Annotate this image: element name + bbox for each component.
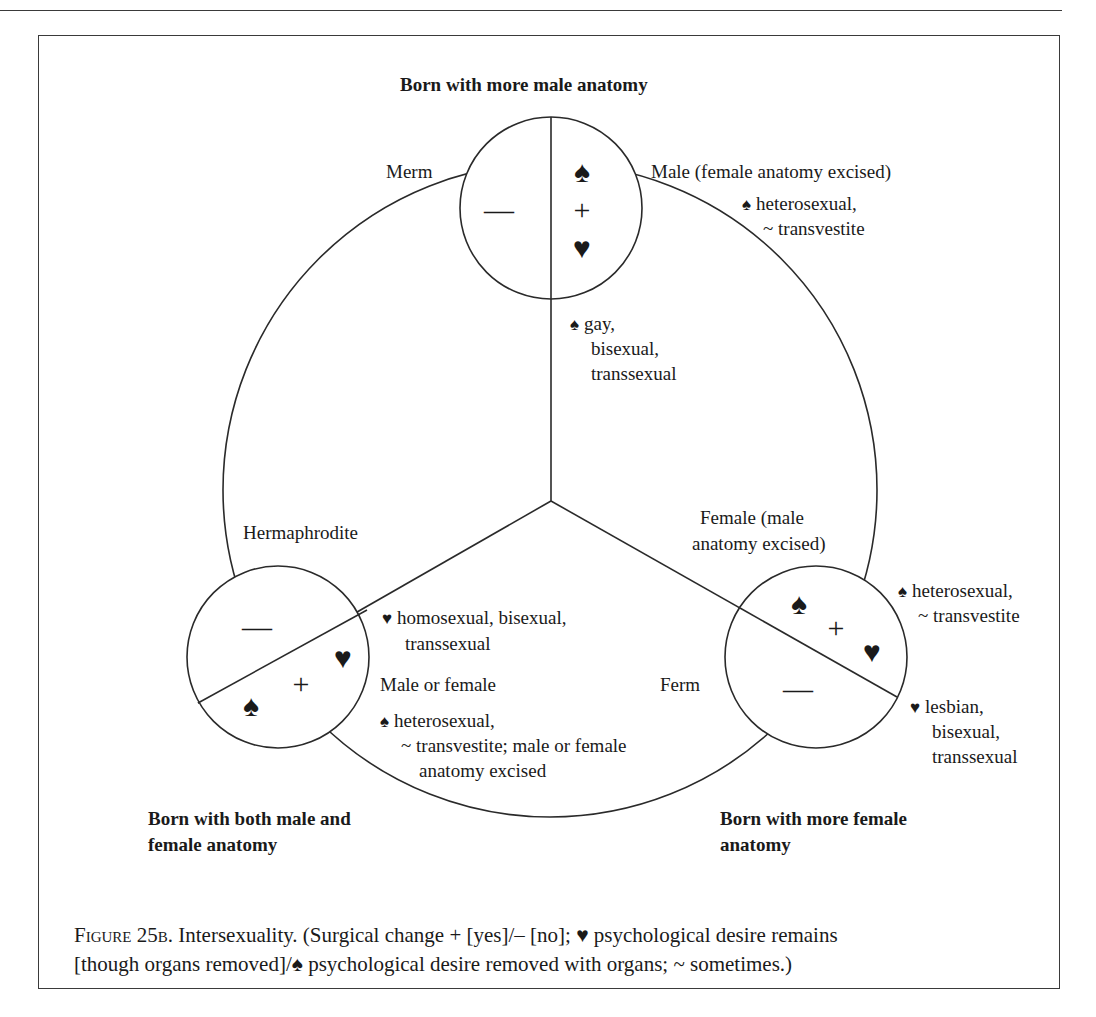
label-merm: Merm — [386, 159, 432, 184]
heading-more-female-line1: Born with more female — [720, 806, 907, 832]
spade-icon: ♠ — [380, 709, 389, 734]
spade-icon: ♠ — [781, 589, 817, 619]
heart-icon: ♥ — [910, 695, 920, 720]
note-herm-heart-line2: transsexual — [405, 631, 490, 656]
heading-more-female-line2: anatomy — [720, 832, 791, 858]
minus-icon: — — [239, 612, 275, 642]
note-herm-spade-line3: anatomy excised — [419, 758, 546, 783]
heading-more-male: Born with more male anatomy — [400, 72, 648, 98]
note-herm-spade-line2: ~ transvestite; male or female — [401, 733, 627, 758]
note-ferm-heart: ♥lesbian, — [910, 694, 984, 720]
note-herm-spade: ♠heterosexual, — [380, 708, 495, 734]
note-female-spade-line2: ~ transvestite — [918, 603, 1020, 628]
note-male-spade-line2: ~ transvestite — [763, 216, 865, 241]
figure-caption: Figure 25b. Intersexuality. (Surgical ch… — [74, 921, 1054, 979]
figure-label: Figure 25b. — [74, 923, 173, 947]
label-ferm: Ferm — [660, 672, 700, 697]
heading-both-line1: Born with both male and — [148, 806, 351, 832]
spade-icon: ♠ — [570, 312, 579, 337]
caption-line-1: Figure 25b. Intersexuality. (Surgical ch… — [74, 921, 1054, 950]
heart-icon: ♥ — [564, 233, 600, 263]
note-ferm-heart-line2: bisexual, — [932, 719, 1000, 744]
plus-icon: + — [818, 613, 854, 643]
heading-both-line2: female anatomy — [148, 832, 277, 858]
intersexuality-diagram — [0, 0, 1096, 1017]
label-male-excised: Male (female anatomy excised) — [651, 159, 891, 184]
label-male-or-female: Male or female — [380, 672, 496, 697]
plus-icon: + — [283, 669, 319, 699]
note-female-spade: ♠heterosexual, — [898, 578, 1013, 604]
note-inner-spade: ♠gay, — [570, 311, 615, 337]
heart-icon: ♥ — [325, 643, 361, 673]
minus-icon: — — [780, 674, 816, 704]
note-inner-line2: bisexual, — [591, 336, 659, 361]
spade-icon: ♠ — [898, 579, 907, 604]
heart-icon: ♥ — [382, 606, 392, 631]
heart-icon: ♥ — [854, 637, 890, 667]
note-inner-line3: transsexual — [591, 361, 676, 386]
minus-icon: — — [481, 195, 517, 225]
note-male-spade: ♠heterosexual, — [742, 191, 857, 217]
note-herm-heart: ♥homosexual, bisexual, — [382, 605, 566, 631]
label-female-excised-line1: Female (male — [700, 505, 804, 530]
spade-icon: ♠ — [564, 157, 600, 187]
spade-icon: ♠ — [233, 691, 269, 721]
plus-icon: + — [564, 195, 600, 225]
caption-line-2: [though organs removed]/♠ psychological … — [74, 950, 1054, 979]
label-female-excised-line2: anatomy excised) — [692, 531, 825, 556]
spade-icon: ♠ — [742, 192, 751, 217]
note-ferm-heart-line3: transsexual — [932, 744, 1017, 769]
label-hermaphrodite: Hermaphrodite — [243, 520, 358, 545]
